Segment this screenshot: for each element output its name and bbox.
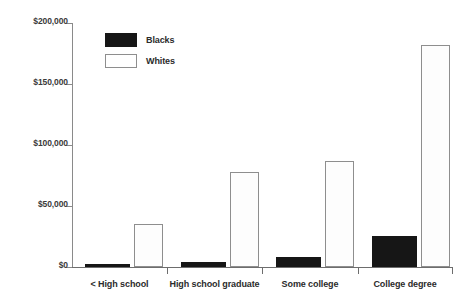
x-axis-label-college-degree: College degree (358, 279, 452, 289)
bar-whites-college-degree (421, 45, 450, 267)
group-separator (358, 267, 359, 274)
x-axis-label-some-college: Some college (262, 279, 358, 289)
group-separator (167, 267, 168, 274)
legend-label-blacks: Blacks (146, 35, 174, 45)
y-tick-label: $0 (59, 260, 68, 270)
y-tick-label: $100,000 (33, 138, 68, 148)
legend-item-whites: Whites (105, 52, 175, 69)
bar-whites-some-college (325, 161, 354, 267)
bar-blacks-high-school-graduate (181, 262, 226, 267)
bar-whites-high-school-graduate (230, 172, 259, 267)
group-separator (452, 267, 453, 274)
y-axis-line (72, 23, 73, 267)
legend: Blacks Whites (105, 31, 175, 73)
group-separator (262, 267, 263, 274)
x-axis-label-high-school-less: < High school (72, 279, 167, 289)
y-tick-label: $50,000 (38, 199, 68, 209)
legend-swatch-blacks-icon (105, 33, 137, 47)
legend-swatch-whites-icon (105, 54, 137, 68)
bar-blacks-college-degree (372, 236, 417, 267)
y-tick-label: $150,000 (33, 77, 68, 87)
x-axis-label-high-school-graduate: High school graduate (167, 279, 262, 289)
bar-blacks-high-school-less (85, 264, 130, 267)
bar-whites-high-school-less (134, 224, 163, 267)
y-tick-label: $200,000 (33, 16, 68, 26)
legend-item-blacks: Blacks (105, 31, 175, 48)
chart-figure: $200,000 $150,000 $100,000 $50,000 $0 (0, 0, 463, 300)
legend-label-whites: Whites (146, 56, 175, 66)
bar-blacks-some-college (276, 257, 321, 267)
